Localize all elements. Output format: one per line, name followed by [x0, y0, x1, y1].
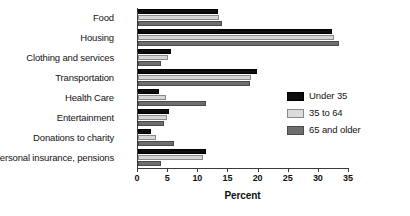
bar [138, 69, 257, 74]
category-label: Personal insurance, pensions [0, 152, 114, 163]
chart-row: Transportation [0, 68, 410, 88]
category-label: Clothing and services [0, 52, 114, 63]
category-label: Food [0, 12, 114, 23]
bar [138, 129, 151, 134]
bar [138, 115, 167, 120]
bar [138, 21, 222, 26]
category-label: Donations to charity [0, 132, 114, 143]
bar [138, 121, 164, 126]
bar [138, 41, 339, 46]
legend-label: 65 and older [309, 124, 361, 135]
x-axis-tick-label: 5 [165, 173, 170, 183]
bar [138, 95, 166, 100]
category-label: Health Care [0, 92, 114, 103]
x-axis-tick-label: 10 [192, 173, 202, 183]
bar [138, 101, 206, 106]
bar [138, 109, 169, 114]
category-label: Transportation [0, 72, 114, 83]
x-axis-title: Percent [137, 190, 348, 201]
x-axis-tick [348, 168, 349, 172]
bar [138, 61, 161, 66]
legend-label: 35 to 64 [309, 107, 343, 118]
x-axis-tick-label: 30 [313, 173, 323, 183]
x-axis-tick [137, 168, 138, 172]
legend-item-under-35: Under 35 [287, 90, 397, 105]
bar [138, 55, 168, 60]
x-axis-tick [318, 168, 319, 172]
bar [138, 89, 159, 94]
category-label: Entertainment [0, 112, 114, 123]
chart-row: Clothing and services [0, 48, 410, 68]
legend-label: Under 35 [309, 90, 347, 101]
x-axis-tick-label: 25 [283, 173, 293, 183]
x-axis-tick [258, 168, 259, 172]
x-axis-tick-label: 0 [135, 173, 140, 183]
x-axis-tick-label: 15 [223, 173, 233, 183]
x-axis-tick-label: 35 [343, 173, 353, 183]
bar [138, 49, 171, 54]
bar [138, 135, 156, 140]
bar [138, 75, 251, 80]
chart-row: Food [0, 8, 410, 28]
bar [138, 161, 161, 166]
bar [138, 15, 219, 20]
bar [138, 9, 218, 14]
bar [138, 29, 332, 34]
x-axis-tick [167, 168, 168, 172]
bar [138, 155, 203, 160]
category-label: Housing [0, 32, 114, 43]
bar [138, 35, 334, 40]
x-axis-tick [227, 168, 228, 172]
chart-legend: Under 35 35 to 64 65 and older [287, 90, 397, 141]
legend-item-35-to-64: 35 to 64 [287, 107, 397, 122]
x-axis-tick-label: 20 [253, 173, 263, 183]
bar-chart: 05101520253035 FoodHousingClothing and s… [0, 0, 410, 216]
bar [138, 141, 174, 146]
legend-item-65-and-older: 65 and older [287, 124, 397, 139]
x-axis-tick [197, 168, 198, 172]
x-axis-line [137, 168, 348, 169]
legend-swatch-icon [287, 109, 304, 118]
chart-row: Housing [0, 28, 410, 48]
chart-row: Personal insurance, pensions [0, 148, 410, 168]
bar [138, 81, 250, 86]
legend-swatch-icon [287, 126, 304, 135]
bar [138, 149, 206, 154]
x-axis-tick [288, 168, 289, 172]
legend-swatch-icon [287, 92, 304, 101]
